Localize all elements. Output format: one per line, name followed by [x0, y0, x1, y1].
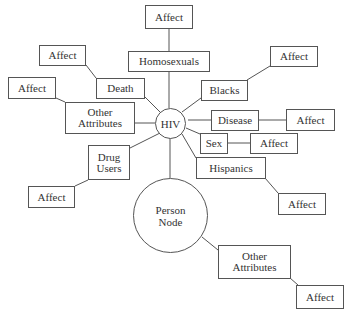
- person-node: Person Node: [133, 178, 208, 253]
- affect-box-sex: Affect: [250, 133, 298, 154]
- affect-box-drug-users: Affect: [28, 186, 75, 208]
- attribute-disease: Disease: [211, 110, 259, 131]
- affect-label: Affect: [297, 115, 325, 126]
- attribute-death: Death: [96, 78, 145, 99]
- attribute-other-left: Other Attributes: [65, 102, 135, 134]
- attribute-label: Sex: [206, 138, 223, 149]
- attribute-homosexuals: Homosexuals: [128, 51, 210, 72]
- edge-hispanics-affect: [265, 178, 278, 193]
- edge-hiv-death: [144, 96, 161, 113]
- edge-death-affect: [86, 65, 96, 78]
- affect-box-hispanics: Affect: [278, 193, 326, 215]
- affect-box-other-left: Affect: [8, 77, 56, 99]
- attribute-label: Death: [107, 83, 133, 94]
- attribute-label: Other Attributes: [233, 251, 277, 273]
- attribute-hispanics: Hispanics: [196, 157, 266, 179]
- affect-label: Affect: [155, 12, 183, 23]
- hiv-label: HIV: [161, 118, 181, 130]
- affect-label: Affect: [49, 50, 77, 61]
- edge-hiv-drug: [130, 133, 160, 148]
- edge-blacks-affect: [247, 66, 270, 80]
- hiv-node: HIV: [155, 108, 186, 139]
- affect-box-blacks: Affect: [270, 46, 318, 67]
- attribute-other-right: Other Attributes: [218, 245, 291, 279]
- affect-label: Affect: [38, 192, 66, 203]
- attribute-blacks: Blacks: [201, 80, 248, 101]
- attribute-label: Drug Users: [96, 152, 121, 174]
- affect-box-disease: Affect: [286, 109, 335, 131]
- attribute-label: Blacks: [210, 85, 240, 96]
- edge-hiv-sex: [186, 128, 200, 134]
- edge-hiv-blacks: [182, 98, 201, 112]
- person-node-label: Person Node: [156, 204, 186, 228]
- edge-person-other-right: [202, 237, 218, 250]
- edge-other-right-affect: [290, 278, 298, 285]
- edge-hiv-hispanics: [182, 134, 196, 158]
- attribute-label: Hispanics: [209, 163, 252, 174]
- attribute-label: Other Attributes: [78, 107, 122, 129]
- affect-box-homosexuals: Affect: [145, 5, 193, 29]
- affect-box-other-right: Affect: [296, 285, 344, 309]
- attribute-label: Disease: [218, 115, 252, 126]
- affect-label: Affect: [260, 138, 288, 149]
- attribute-drug-users: Drug Users: [88, 145, 130, 180]
- attribute-label: Homosexuals: [139, 56, 199, 67]
- affect-label: Affect: [288, 199, 316, 210]
- edge-other-left-affect: [56, 98, 65, 102]
- affect-box-death: Affect: [39, 45, 86, 66]
- affect-label: Affect: [18, 83, 46, 94]
- attribute-sex: Sex: [200, 133, 228, 154]
- affect-label: Affect: [306, 292, 334, 303]
- edge-drug-affect: [75, 180, 88, 186]
- affect-label: Affect: [280, 51, 308, 62]
